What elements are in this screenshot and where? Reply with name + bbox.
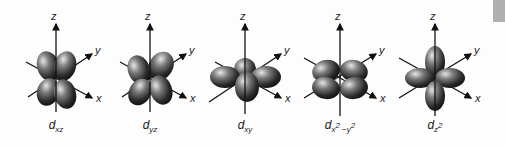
orbital-dxz: z y x <box>26 10 102 112</box>
svg-text:x: x <box>284 92 291 104</box>
orbital-dx2-y2: z y x <box>304 10 386 116</box>
label-dyz: dyz <box>143 118 158 134</box>
svg-text:z: z <box>429 10 436 22</box>
svg-text:x: x <box>189 92 196 104</box>
label-dxz: dxz <box>49 118 64 134</box>
svg-text:z: z <box>334 10 341 22</box>
svg-text:y: y <box>378 44 386 56</box>
label-dz2: dz2 <box>427 118 442 134</box>
svg-text:y: y <box>473 44 481 56</box>
svg-text:z: z <box>239 10 246 22</box>
orbital-dxy: z y x <box>209 10 291 114</box>
orbital-dyz: z y x <box>120 10 196 112</box>
svg-text:x: x <box>379 92 386 104</box>
svg-text:x: x <box>474 92 481 104</box>
svg-text:y: y <box>283 44 291 56</box>
label-dx2-y2: dx2 −y2 <box>325 118 356 134</box>
svg-text:y: y <box>94 44 102 56</box>
svg-text:z: z <box>50 10 57 22</box>
label-dxy: dxy <box>238 118 253 134</box>
svg-text:y: y <box>188 44 196 56</box>
svg-text:x: x <box>95 92 102 104</box>
svg-text:z: z <box>144 10 151 22</box>
orbital-dz2: z y x <box>399 10 481 116</box>
